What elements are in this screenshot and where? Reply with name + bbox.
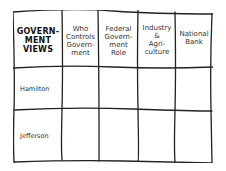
column-header-industry-agriculture: Industry & Agri- culture	[139, 12, 175, 67]
cell-jefferson-who-controls[interactable]	[63, 111, 98, 160]
header-line: ment	[71, 49, 89, 57]
header-line: culture	[145, 48, 169, 56]
title-line: VIEWS	[23, 45, 53, 54]
header-line: Controls	[66, 33, 95, 41]
cell-hamilton-who-controls[interactable]	[63, 69, 98, 109]
column-header-federal-role: Federal Govern- ment Role	[99, 14, 138, 67]
header-line: ment	[109, 41, 127, 49]
cell-hamilton-industry[interactable]	[139, 69, 175, 109]
header-line: Role	[111, 49, 126, 57]
table-title: GOVERN- MENT VIEWS	[15, 14, 61, 67]
cell-hamilton-bank[interactable]	[176, 69, 211, 109]
column-header-national-bank: National Bank	[176, 14, 212, 62]
header-line: Industry	[143, 24, 172, 32]
cell-jefferson-industry[interactable]	[139, 111, 175, 160]
header-line: Govern-	[67, 41, 95, 49]
government-views-table: GOVERN- MENT VIEWS Who Controls Govern- …	[13, 10, 213, 163]
header-line: Agri-	[149, 40, 166, 48]
header-line: Federal	[106, 25, 132, 33]
cell-jefferson-federal-role[interactable]	[100, 111, 137, 160]
row-label-jefferson: Jefferson	[14, 110, 62, 162]
cell-jefferson-bank[interactable]	[176, 111, 211, 160]
header-line: Govern-	[105, 33, 133, 41]
header-line: Bank	[185, 38, 203, 46]
column-header-who-controls: Who Controls Govern- ment	[63, 14, 98, 67]
header-line: National	[179, 30, 208, 38]
title-line: GOVERN-	[17, 27, 59, 36]
header-line: &	[154, 32, 159, 40]
row-label-hamilton: Hamilton	[14, 68, 62, 110]
header-line: Who	[73, 25, 89, 33]
title-line: MENT	[25, 36, 51, 45]
cell-hamilton-federal-role[interactable]	[100, 69, 137, 109]
